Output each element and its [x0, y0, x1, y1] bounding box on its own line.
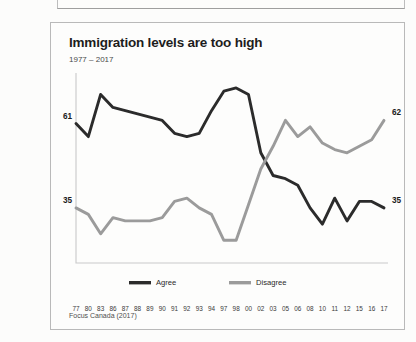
x-tick-label: 06	[294, 305, 302, 312]
legend-swatch-agree	[129, 281, 151, 284]
x-tick-label: 83	[97, 305, 105, 312]
x-tick-label: 94	[208, 305, 216, 312]
chart-plot-area: 61356235 AgreeDisagree 77808386878889909…	[51, 67, 404, 317]
legend-label-disagree: Disagree	[256, 278, 286, 287]
figure-subtitle: 1977 – 2017	[69, 55, 114, 64]
x-tick-label: 77	[72, 305, 80, 312]
x-tick-label: 16	[368, 305, 376, 312]
x-tick-label: 02	[257, 305, 265, 312]
x-tick-label: 89	[146, 305, 154, 312]
x-tick-label: 00	[245, 305, 253, 312]
x-tick-label: 80	[85, 305, 93, 312]
endpoint-label-right-disagree: 62	[392, 108, 402, 117]
x-tick-label: 17	[380, 305, 388, 312]
x-tick-label: 03	[270, 305, 278, 312]
series-line-agree	[76, 88, 384, 224]
chart-series	[76, 88, 384, 240]
x-tick-label: 12	[343, 305, 351, 312]
x-tick-label: 87	[122, 305, 130, 312]
endpoint-label-left-agree: 61	[63, 112, 73, 121]
x-tick-label: 05	[282, 305, 290, 312]
line-chart: 61356235 AgreeDisagree 77808386878889909…	[51, 67, 404, 317]
x-tick-label: 86	[109, 305, 117, 312]
x-tick-label: 93	[196, 305, 204, 312]
legend-label-agree: Agree	[156, 278, 176, 287]
endpoint-label-left-disagree: 35	[63, 196, 73, 205]
chart-x-tick-labels: 7780838687888990919293949798000203050608…	[72, 305, 388, 312]
figure-source-note: Focus Canada (2017)	[69, 312, 137, 319]
endpoint-label-right-agree: 35	[392, 196, 402, 205]
figure-title: Immigration levels are too high	[69, 35, 262, 50]
chart-axes	[76, 73, 388, 263]
series-line-disagree	[76, 120, 384, 240]
chart-endpoint-labels: 61356235	[63, 108, 402, 205]
page-canvas: Immigration levels are too high 1977 – 2…	[0, 0, 416, 342]
x-tick-label: 08	[307, 305, 315, 312]
x-tick-label: 97	[220, 305, 228, 312]
x-tick-label: 10	[319, 305, 327, 312]
figure-container: Immigration levels are too high 1977 – 2…	[50, 22, 405, 330]
x-tick-label: 15	[356, 305, 364, 312]
adjacent-panel-edge	[57, 0, 405, 9]
x-tick-label: 92	[183, 305, 191, 312]
x-tick-label: 11	[331, 305, 338, 312]
x-tick-label: 90	[159, 305, 167, 312]
x-tick-label: 88	[134, 305, 142, 312]
x-tick-label: 98	[233, 305, 241, 312]
chart-legend: AgreeDisagree	[129, 278, 286, 287]
x-tick-label: 91	[171, 305, 179, 312]
legend-swatch-disagree	[229, 281, 251, 284]
